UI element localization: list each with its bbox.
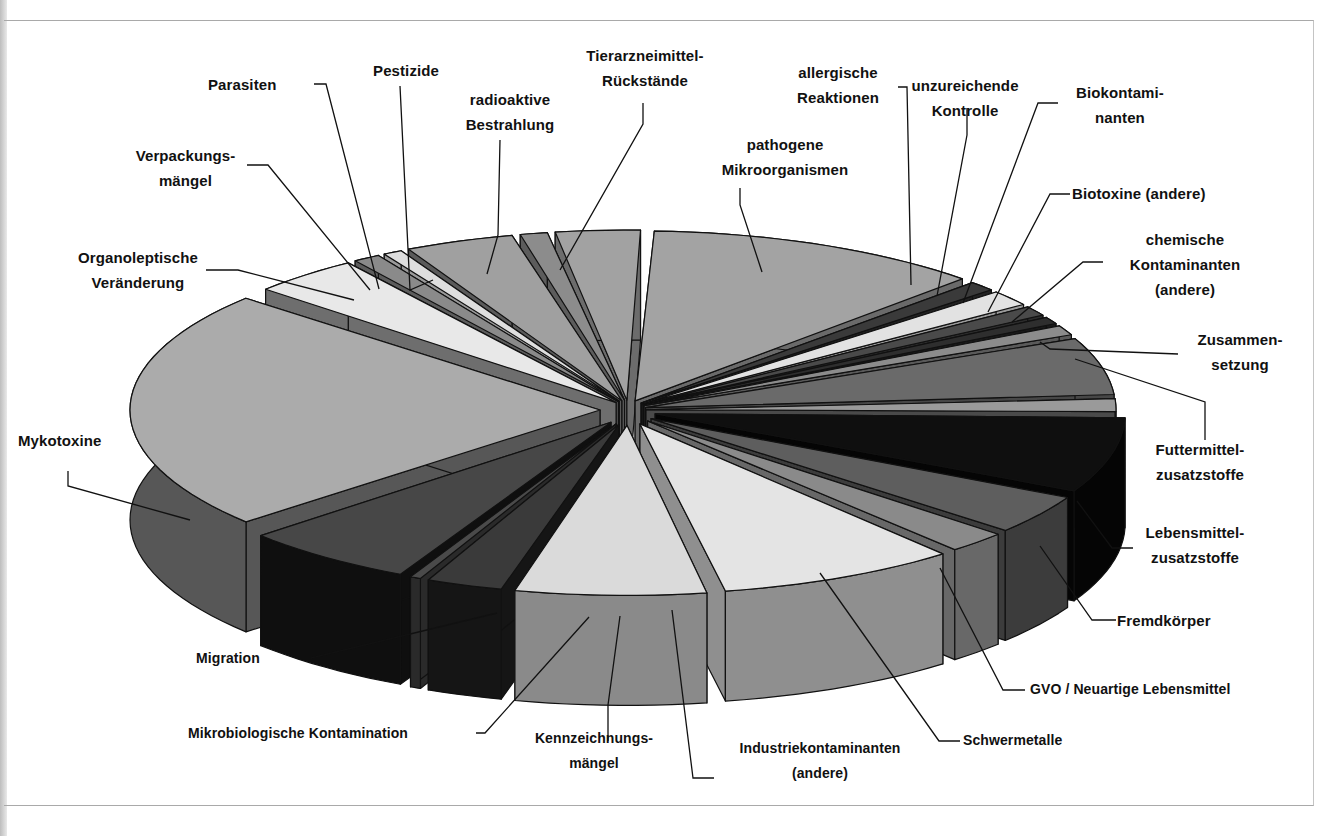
slice-label-chemische: chemische Kontaminanten (andere) bbox=[1110, 227, 1260, 302]
slice-label-pestizide: Pestizide bbox=[356, 58, 456, 83]
slice-label-biokontaminanten: Biokontami- nanten bbox=[1060, 80, 1180, 130]
slice-label-biotoxine: Biotoxine (andere) bbox=[1072, 181, 1242, 206]
pie-slices bbox=[130, 230, 1125, 705]
slice-label-mykotoxine: Mykotoxine bbox=[18, 428, 128, 453]
slice-label-pathogene: pathogene Mikroorganismen bbox=[700, 132, 870, 182]
slice-label-gvo: GVO / Neuartige Lebensmittel bbox=[1030, 677, 1320, 702]
slice-label-parasiten: Parasiten bbox=[208, 72, 308, 97]
slice-label-tierarznei: Tierarzneimittel- Rückstände bbox=[560, 43, 730, 93]
slice-label-migration: Migration bbox=[196, 646, 296, 671]
slice-label-industrie: Industriekontaminanten (andere) bbox=[710, 736, 930, 786]
leader-line-4 bbox=[963, 103, 1058, 303]
slice-label-zusammensetzung: Zusammen- setzung bbox=[1180, 327, 1300, 377]
leader-line-3 bbox=[937, 108, 967, 296]
slice-label-radioaktive: radioaktive Bestrahlung bbox=[450, 87, 570, 137]
slice-label-futtermittel: Futtermittel- zusatzstoffe bbox=[1140, 437, 1260, 487]
slice-label-lebensmittel: Lebensmittel- zusatzstoffe bbox=[1130, 520, 1260, 570]
slice-label-mikrobiologische: Mikrobiologische Kontamination bbox=[188, 721, 478, 746]
slice-label-organoleptische: Organoleptische Veränderung bbox=[58, 245, 218, 295]
slice-label-schwermetalle: Schwermetalle bbox=[963, 728, 1113, 753]
slice-label-allergische: allergische Reaktionen bbox=[768, 60, 908, 110]
slice-label-unzureichende: unzureichende Kontrolle bbox=[900, 73, 1030, 123]
slice-label-fremdkoerper: Fremdkörper bbox=[1117, 608, 1237, 633]
slice-label-kennzeichnung: Kennzeichnungs- mängel bbox=[519, 726, 669, 776]
slice-label-verpackung: Verpackungs- mängel bbox=[118, 143, 253, 193]
